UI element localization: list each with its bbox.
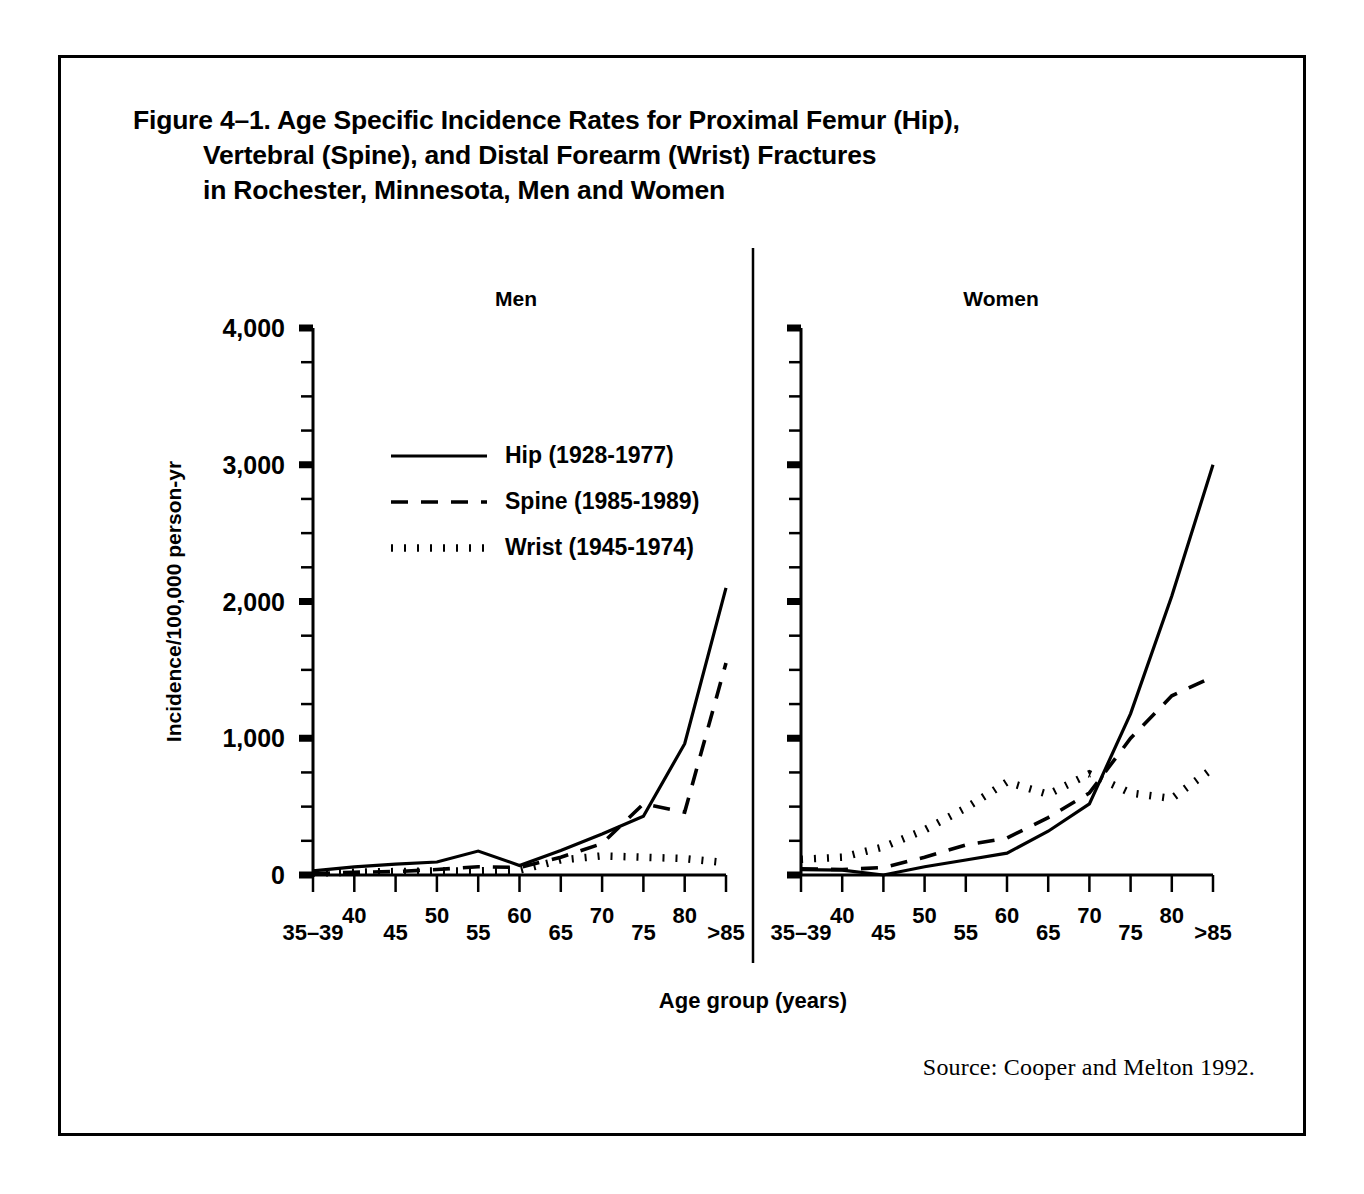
- x-tick-label-women-7: 70: [1077, 903, 1101, 928]
- x-tick-label-men-2: 45: [383, 920, 407, 945]
- x-tick-label-men-0: 35–39: [282, 920, 343, 945]
- y-tick-label-1,000: 1,000: [222, 724, 285, 752]
- x-tick-label-women-1: 40: [830, 903, 854, 928]
- x-tick-label-men-10: >85: [707, 920, 744, 945]
- x-tick-label-women-5: 60: [995, 903, 1019, 928]
- x-tick-label-men-9: 80: [672, 903, 696, 928]
- panel-title-men: Men: [495, 287, 537, 310]
- series-line-women-hip: [801, 465, 1213, 875]
- x-tick-label-men-4: 55: [466, 920, 490, 945]
- y-tick-label-3,000: 3,000: [222, 451, 285, 479]
- source-note: Source: Cooper and Melton 1992.: [923, 1054, 1255, 1081]
- series-line-men-hip: [313, 588, 726, 871]
- x-tick-label-men-1: 40: [342, 903, 366, 928]
- x-axis-title: Age group (years): [659, 988, 847, 1013]
- x-tick-label-men-8: 75: [631, 920, 655, 945]
- legend-label-spine: Spine (1985-1989): [505, 488, 699, 514]
- figure-border: Figure 4–1. Age Specific Incidence Rates…: [58, 55, 1306, 1136]
- x-tick-label-women-4: 55: [954, 920, 978, 945]
- panel-title-women: Women: [963, 287, 1038, 310]
- x-tick-label-women-2: 45: [871, 920, 895, 945]
- x-tick-label-women-3: 50: [912, 903, 936, 928]
- series-line-women-spine: [801, 677, 1213, 870]
- legend-label-wrist: Wrist (1945-1974): [505, 534, 694, 560]
- x-tick-label-women-0: 35–39: [770, 920, 831, 945]
- series-line-women-wrist: [801, 768, 1213, 859]
- chart-canvas: Men01,0002,0003,0004,000Incidence/100,00…: [61, 58, 1309, 1139]
- x-tick-label-women-10: >85: [1194, 920, 1231, 945]
- panel-women: Women35–39404550556065707580>85: [770, 287, 1231, 945]
- x-tick-label-women-8: 75: [1118, 920, 1142, 945]
- x-tick-label-women-6: 65: [1036, 920, 1060, 945]
- series-line-men-spine: [313, 663, 726, 874]
- x-tick-label-men-3: 50: [425, 903, 449, 928]
- y-axis-title: Incidence/100,000 person-yr: [162, 461, 185, 742]
- x-tick-label-women-9: 80: [1160, 903, 1184, 928]
- legend-label-hip: Hip (1928-1977): [505, 442, 674, 468]
- y-tick-label-2,000: 2,000: [222, 588, 285, 616]
- chart-legend: Hip (1928-1977)Spine (1985-1989)Wrist (1…: [391, 442, 699, 560]
- x-tick-label-men-6: 65: [549, 920, 573, 945]
- y-tick-label-4,000: 4,000: [222, 314, 285, 342]
- x-tick-label-men-7: 70: [590, 903, 614, 928]
- y-tick-label-0: 0: [271, 861, 285, 889]
- x-tick-label-men-5: 60: [507, 903, 531, 928]
- panel-men: Men01,0002,0003,0004,000Incidence/100,00…: [162, 287, 745, 945]
